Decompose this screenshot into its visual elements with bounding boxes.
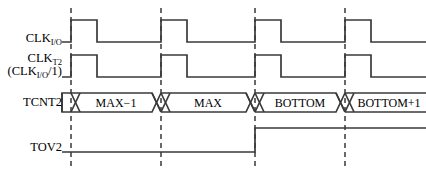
clk-t2-qualifier-subscript: I/O — [37, 70, 48, 80]
clk-t2-subscript: T2 — [53, 57, 62, 67]
signal-label-clk-io: CLKI/O — [26, 32, 62, 45]
signal-label-tcnt2: TCNT2 — [23, 96, 62, 109]
clk-t2-qualifier: (CLK — [8, 64, 37, 78]
signal-label-clk-t2: CLKT2 (CLKI/O/1) — [8, 52, 62, 78]
clk-t2-line2: (CLKI/O/1) — [8, 65, 62, 78]
clk-io-name: CLK — [26, 31, 51, 45]
clk-io-subscript: I/O — [51, 37, 62, 47]
tcnt2-cell-value: MAX — [170, 95, 246, 111]
tcnt2-cell-value: BOTTOM — [264, 95, 336, 111]
edge-marker-group — [71, 8, 345, 168]
tov2-waveform — [62, 128, 426, 152]
timing-diagram: CLKI/O CLKT2 (CLKI/O/1) TCNT2 TOV2 MAX−1… — [0, 0, 426, 175]
waveform-canvas — [0, 0, 426, 175]
clk-t2-name: CLK — [28, 51, 53, 65]
tcnt2-cell-value: BOTTOM+1 — [352, 95, 426, 111]
tcnt2-cell-value: MAX−1 — [80, 95, 152, 111]
clk-t2-line1: CLKT2 — [28, 51, 62, 65]
clk-t2-waveform — [62, 55, 426, 77]
signal-label-tov2: TOV2 — [30, 141, 62, 154]
clk-io-waveform — [62, 20, 426, 42]
